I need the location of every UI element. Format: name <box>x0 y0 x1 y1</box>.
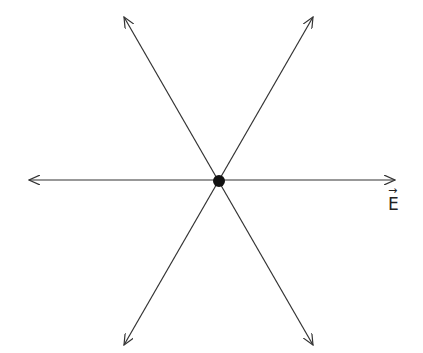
electric-field-label: → E <box>388 194 399 214</box>
center-dot <box>213 175 225 187</box>
field-diagram <box>0 0 423 353</box>
electric-field-symbol: E <box>388 194 399 214</box>
arrows-group <box>29 17 395 345</box>
vector-arrow-icon: → <box>388 185 397 196</box>
